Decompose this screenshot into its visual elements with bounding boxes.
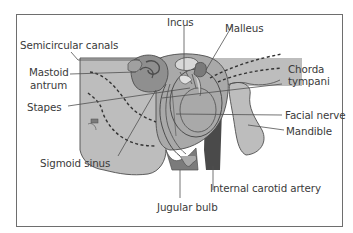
label-jugular-bulb: Jugular bulb: [157, 201, 218, 213]
mandible-shape: [229, 82, 264, 155]
label-mandible: Mandible: [286, 125, 332, 137]
label-chorda-tympani-line1: Chorda: [288, 63, 324, 75]
label-malleus: Malleus: [225, 22, 263, 34]
label-sigmoid-sinus: Sigmoid sinus: [40, 157, 110, 169]
label-internal-carotid-artery: Internal carotid artery: [210, 182, 321, 194]
label-facial-nerve: Facial nerve: [285, 109, 346, 121]
label-mastoid-antrum-line1: Mastoid: [29, 66, 69, 78]
label-stapes: Stapes: [27, 101, 62, 113]
malleus-shape: [194, 62, 206, 76]
sigmoid-sinus-marker: [91, 119, 98, 123]
label-mastoid-antrum-line2: antrum: [30, 79, 67, 91]
label-semicircular-canals: Semicircular canals: [20, 39, 118, 51]
label-chorda-tympani-line2: tympani: [288, 75, 330, 87]
label-incus: Incus: [167, 16, 194, 28]
